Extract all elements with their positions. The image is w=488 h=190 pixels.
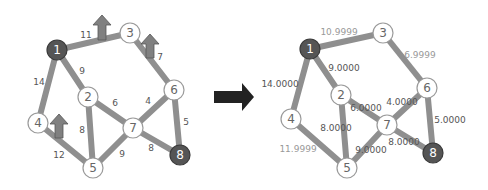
svg-text:3: 3 [379,26,387,40]
node-7: 7 [377,115,397,135]
svg-text:2: 2 [84,90,92,104]
node-6: 6 [417,78,437,98]
edge-weight-label: 7 [157,52,163,62]
svg-text:8: 8 [429,146,437,160]
svg-text:8: 8 [176,148,184,162]
edge-weight-label: 4.0000 [386,97,418,107]
edge-weight-label: 12 [53,150,64,160]
edge-2-5 [88,97,93,168]
edge-weight-label: 14 [33,77,45,87]
svg-text:1: 1 [53,43,61,57]
edge-weight-label: 11.9999 [279,144,316,154]
node-6: 6 [164,80,184,100]
svg-text:7: 7 [129,121,137,135]
graph-weight-update-diagram: 11 9 14 7 6 8 4 5 12 9 8 1 2 3 4 5 6 7 8 [0,0,488,190]
right-graph: 10.9999 9.0000 14.0000 6.9999 6.0000 8.0… [261,23,466,178]
svg-text:7: 7 [383,118,391,132]
svg-text:2: 2 [337,88,345,102]
edge-weight-label: 5.0000 [434,115,466,125]
edge-weight-label: 9 [79,66,85,76]
node-8: 8 [423,143,443,163]
node-2: 2 [331,85,351,105]
node-5: 5 [83,158,103,178]
node-2: 2 [78,87,98,107]
svg-text:1: 1 [306,42,314,56]
edge-weight-label: 5 [183,117,189,127]
edge-weight-label: 6.0000 [350,103,382,113]
right-arrow-icon [214,83,254,111]
node-5: 5 [337,158,357,178]
node-1: 1 [300,39,320,59]
edge-weight-label: 6.9999 [404,50,436,60]
left-graph: 11 9 14 7 6 8 4 5 12 9 8 1 2 3 4 5 6 7 8 [28,15,190,178]
node-3: 3 [373,23,393,43]
edge-weight-label: 9 [119,149,125,159]
edge-weight-label: 9.0000 [328,63,360,73]
edge-weight-label: 6 [112,98,118,108]
svg-text:4: 4 [34,116,42,130]
edge-weight-label: 14.0000 [261,79,298,89]
node-1: 1 [47,40,67,60]
node-3: 3 [120,23,140,43]
edge-weight-label: 8.0000 [320,123,352,133]
edge-weight-label: 8 [148,143,154,153]
edge-weight-label: 10.9999 [320,27,357,37]
svg-text:5: 5 [343,161,351,175]
svg-text:6: 6 [423,81,431,95]
edge-weight-label: 8 [79,125,85,135]
edge-weight-label: 8.0000 [388,137,420,147]
edge-weight-label: 9.0000 [355,145,387,155]
svg-text:6: 6 [170,83,178,97]
svg-text:4: 4 [287,112,295,126]
node-7: 7 [123,118,143,138]
svg-text:3: 3 [126,26,134,40]
edge-weight-label: 11 [80,30,91,40]
node-8: 8 [170,145,190,165]
node-4: 4 [281,109,301,129]
edge-weight-label: 4 [145,96,151,106]
svg-text:5: 5 [89,161,97,175]
edge-1-3 [57,33,130,50]
node-4: 4 [28,113,48,133]
